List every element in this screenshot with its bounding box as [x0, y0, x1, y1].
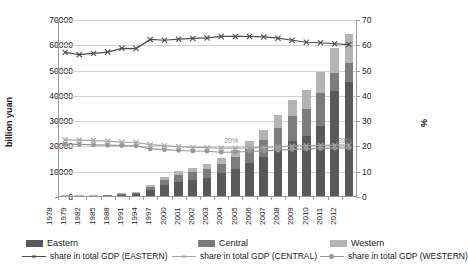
legend-item-eastern[interactable]: Eastern	[26, 238, 78, 248]
y-axis-title-left: billion yuan	[2, 62, 16, 182]
legend-item-line-2[interactable]: ✕share in total GDP (CENTRAL)	[172, 251, 317, 261]
legend-item-line-1[interactable]: ✕share in total GDP (EASTERN)	[22, 251, 167, 261]
marker-circle	[290, 147, 295, 152]
x-tick-label: 2012	[329, 199, 369, 233]
chart-legend: EasternCentralWestern ✕share in total GD…	[0, 238, 435, 265]
legend-item-line-3[interactable]: share in total GDP (WESTERN)	[320, 251, 468, 261]
marker-circle	[191, 149, 196, 154]
marker-circle	[219, 150, 224, 155]
legend-swatch	[26, 240, 43, 247]
marker-circle	[91, 143, 96, 148]
marker-circle	[247, 149, 252, 154]
marker-circle	[304, 147, 309, 152]
marker-circle	[162, 147, 167, 152]
marker-circle	[332, 146, 337, 151]
marker-circle	[261, 149, 266, 154]
marker-circle	[347, 146, 352, 151]
legend-item-western[interactable]: Western	[330, 238, 384, 248]
y-tick-label-right: 30	[362, 116, 392, 126]
legend-row-lines: ✕share in total GDP (EASTERN)✕share in t…	[0, 251, 435, 265]
legend-line-marker	[320, 252, 344, 261]
marker-circle	[176, 148, 181, 153]
marker-circle	[134, 144, 139, 149]
y-axis-right-line	[356, 20, 357, 198]
y-axis-title-right: %	[417, 110, 431, 136]
legend-label: Central	[219, 238, 248, 248]
y-tick-label-right: 20	[362, 141, 392, 151]
marker-circle	[276, 148, 281, 153]
y-tick-label-right: 50	[362, 66, 392, 76]
y-tick-label-right: 40	[362, 91, 392, 101]
legend-line-marker: ✕	[172, 252, 196, 261]
data-label: 20%	[224, 137, 238, 144]
y-tick-label-right: 10	[362, 167, 392, 177]
legend-label: share in total GDP (WESTERN)	[348, 251, 468, 261]
marker-circle	[77, 142, 82, 147]
legend-label: share in total GDP (EASTERN)	[50, 251, 167, 261]
legend-line-marker: ✕	[22, 252, 46, 261]
legend-label: Eastern	[47, 238, 78, 248]
y-tick-label-right: 60	[362, 40, 392, 50]
marker-circle	[148, 147, 153, 152]
y-tick-label-right: 70	[362, 15, 392, 25]
data-label: 20%	[338, 137, 352, 144]
legend-swatch	[198, 240, 215, 247]
marker-circle	[318, 146, 323, 151]
marker-circle	[105, 143, 110, 148]
legend-label: share in total GDP (CENTRAL)	[200, 251, 317, 261]
legend-swatch	[330, 240, 347, 247]
legend-row-bars: EasternCentralWestern	[0, 238, 435, 251]
marker-circle	[205, 149, 210, 154]
marker-circle	[63, 142, 68, 147]
line-series-overlay	[58, 20, 356, 197]
marker-circle	[120, 143, 125, 148]
marker-circle	[233, 150, 238, 155]
legend-item-central[interactable]: Central	[198, 238, 248, 248]
legend-label: Western	[351, 238, 384, 248]
x-tick-mark	[342, 197, 343, 200]
